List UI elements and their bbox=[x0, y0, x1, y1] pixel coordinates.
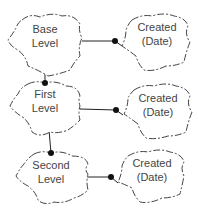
edge-first-created bbox=[78, 105, 116, 110]
connector-dot bbox=[48, 150, 54, 156]
connector-dot bbox=[42, 80, 48, 86]
node-label-line2: (Date) bbox=[137, 171, 168, 183]
node-first-level[interactable]: First Level bbox=[10, 82, 80, 135]
node-created-date-2[interactable]: Created (Date) bbox=[124, 84, 192, 139]
connector-dot bbox=[113, 107, 119, 113]
connector-dot bbox=[108, 174, 114, 180]
edge-first-second bbox=[49, 130, 51, 153]
node-label-line2: (Date) bbox=[143, 106, 174, 118]
diagram-canvas: Base Level Created (Date) First Level Cr… bbox=[0, 0, 198, 214]
node-label-line2: Level bbox=[32, 37, 58, 49]
node-created-date-3[interactable]: Created (Date) bbox=[118, 150, 184, 203]
node-second-level[interactable]: Second Level bbox=[16, 152, 88, 204]
node-label-line1: First bbox=[34, 88, 55, 100]
edge-second-created bbox=[86, 172, 111, 177]
node-label-line1: Base bbox=[32, 23, 57, 35]
node-label-line2: Level bbox=[38, 173, 64, 185]
node-created-date-1[interactable]: Created (Date) bbox=[122, 14, 190, 71]
node-label-line2: (Date) bbox=[142, 35, 173, 47]
node-label-line1: Created bbox=[138, 92, 177, 104]
connector-dot bbox=[112, 38, 118, 44]
node-base-level[interactable]: Base Level bbox=[8, 14, 82, 76]
node-label-line2: Level bbox=[32, 102, 58, 114]
node-label-line1: Second bbox=[32, 159, 69, 171]
node-label-line1: Created bbox=[137, 21, 176, 33]
node-label-line1: Created bbox=[132, 157, 171, 169]
